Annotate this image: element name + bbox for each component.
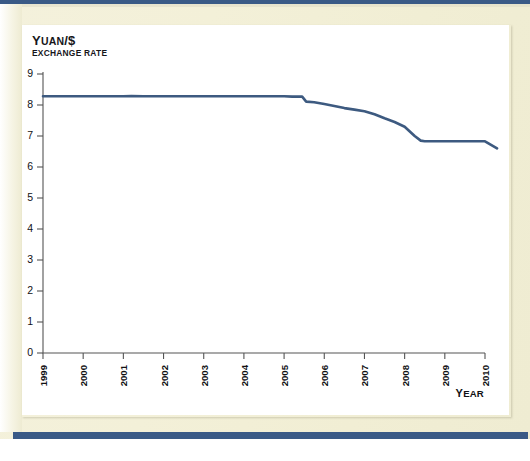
y-axis-ticks (37, 74, 43, 353)
x-tick-label: 2007 (359, 365, 370, 386)
x-tick-label: 2000 (78, 365, 89, 386)
y-tick-label: 6 (27, 160, 33, 172)
y-tick-label: 8 (27, 98, 33, 110)
x-tick-label: 2010 (480, 365, 491, 386)
x-tick-label: 2003 (199, 365, 210, 386)
page-footer-margin (0, 439, 530, 461)
y-tick-label: 2 (27, 284, 33, 296)
y-tick-label: 5 (27, 191, 33, 203)
chart-axes (43, 72, 485, 353)
x-axis-ticks (43, 353, 485, 359)
exchange-rate-line-chart: 0123456789 19992000200120022003200420052… (22, 25, 509, 415)
x-tick-label: 1999 (38, 365, 49, 386)
y-tick-label: 9 (27, 67, 33, 79)
y-tick-label: 3 (27, 253, 33, 265)
x-axis-title: YEAR (456, 387, 484, 399)
y-axis-tick-labels: 0123456789 (27, 67, 33, 358)
x-tick-label: 2005 (279, 364, 290, 386)
y-tick-label: 7 (27, 129, 33, 141)
x-tick-label: 2001 (118, 364, 129, 386)
y-tick-label: 0 (27, 346, 33, 358)
x-tick-label: 2006 (319, 365, 330, 386)
y-tick-label: 1 (27, 315, 33, 327)
y-tick-label: 4 (27, 222, 33, 234)
x-tick-label: 2008 (400, 364, 411, 386)
bottom-rule-bar (13, 432, 528, 439)
x-tick-label: 2002 (159, 365, 170, 386)
page-gutter-shading (0, 4, 22, 432)
series-line-yuan-per-us-dollar (43, 96, 497, 148)
top-rule-shadow (0, 4, 530, 7)
chart-series-group (43, 96, 497, 148)
page-background: YUAN/$ EXCHANGE RATE 0123456789 19992000… (0, 0, 530, 461)
x-tick-label: 2004 (239, 364, 250, 386)
x-tick-label: 2009 (440, 365, 451, 386)
x-axis-tick-labels: 1999200020012002200320042005200620072008… (38, 364, 491, 386)
